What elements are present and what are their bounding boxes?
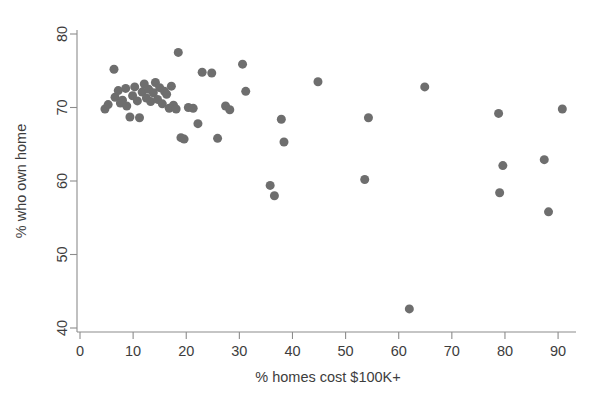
data-point <box>494 109 503 118</box>
x-tick-label: 10 <box>125 343 141 359</box>
data-point <box>495 188 504 197</box>
data-point <box>266 181 275 190</box>
data-point <box>213 134 222 143</box>
data-point <box>360 175 369 184</box>
x-tick-label: 70 <box>444 343 460 359</box>
data-point <box>172 104 181 113</box>
x-axis-title: % homes cost $100K+ <box>255 369 401 385</box>
x-axis-ticks: 0102030405060708090 <box>76 332 566 359</box>
data-point <box>135 113 144 122</box>
data-points-layer <box>100 48 566 314</box>
x-tick-label: 80 <box>497 343 513 359</box>
data-point <box>130 82 139 91</box>
data-point <box>133 96 142 105</box>
y-tick-label: 60 <box>54 173 70 189</box>
y-tick-label: 40 <box>54 320 70 336</box>
data-point <box>167 82 176 91</box>
data-point <box>225 105 234 114</box>
data-point <box>125 113 134 122</box>
data-point <box>405 304 414 313</box>
scatter-plot-figure: 4050607080 0102030405060708090 % homes c… <box>0 0 589 405</box>
y-tick-label: 70 <box>54 99 70 115</box>
y-axis-title: % who own home <box>13 124 29 238</box>
y-tick-label: 80 <box>54 26 70 42</box>
data-point <box>277 115 286 124</box>
y-axis-ticks: 4050607080 <box>54 26 77 336</box>
data-point <box>241 87 250 96</box>
x-tick-label: 30 <box>231 343 247 359</box>
data-point <box>207 68 216 77</box>
data-point <box>122 102 131 111</box>
x-tick-label: 0 <box>76 343 84 359</box>
data-point <box>364 113 373 122</box>
data-point <box>121 84 130 93</box>
data-point <box>238 60 247 69</box>
data-point <box>189 104 198 113</box>
data-point <box>198 68 207 77</box>
data-point <box>313 77 322 86</box>
data-point <box>174 48 183 57</box>
data-point <box>162 90 171 99</box>
x-tick-label: 50 <box>338 343 354 359</box>
x-tick-label: 90 <box>550 343 566 359</box>
data-point <box>498 161 507 170</box>
data-point <box>558 104 567 113</box>
x-tick-label: 40 <box>284 343 300 359</box>
data-point <box>104 100 113 109</box>
x-tick-label: 20 <box>178 343 194 359</box>
data-point <box>540 155 549 164</box>
data-point <box>544 207 553 216</box>
data-point <box>279 138 288 147</box>
data-point <box>193 119 202 128</box>
plot-canvas: 4050607080 0102030405060708090 % homes c… <box>0 0 589 405</box>
data-point <box>420 82 429 91</box>
data-point <box>109 65 118 74</box>
x-tick-label: 60 <box>391 343 407 359</box>
y-tick-label: 50 <box>54 246 70 262</box>
data-point <box>270 191 279 200</box>
data-point <box>180 135 189 144</box>
